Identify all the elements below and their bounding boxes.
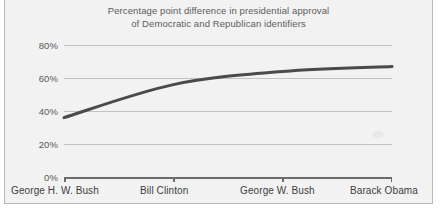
x-tick-label-barack-obama: Barack Obama (350, 185, 418, 196)
gridline-60 (64, 78, 392, 79)
figure-border-left (4, 0, 5, 204)
x-tick-label-george-hw-bush: George H. W. Bush (11, 185, 99, 196)
plot-area (64, 45, 392, 177)
x-tick-3 (391, 177, 393, 182)
x-axis-line (64, 177, 392, 179)
x-tick-label-bill-clinton: Bill Clinton (140, 185, 188, 196)
x-tick-1 (173, 177, 175, 182)
y-tick-label-20: 20% (10, 139, 58, 150)
y-tick-label-0: 0% (10, 172, 58, 183)
x-tick-0 (64, 177, 66, 182)
x-tick-label-george-w-bush: George W. Bush (240, 185, 315, 196)
y-tick-label-60: 60% (10, 73, 58, 84)
x-tick-2 (282, 177, 284, 182)
y-tick-label-40: 40% (10, 106, 58, 117)
y-tick-label-80: 80% (10, 40, 58, 51)
gridline-40 (64, 111, 392, 112)
gridline-20 (64, 144, 392, 145)
chart-figure: Percentage point difference in president… (0, 0, 446, 212)
figure-border-right (432, 0, 433, 204)
paper-artifact (372, 131, 384, 138)
gridline-80 (64, 45, 392, 46)
chart-title: Percentage point difference in president… (5, 5, 432, 30)
figure-border-bottom (4, 203, 433, 204)
